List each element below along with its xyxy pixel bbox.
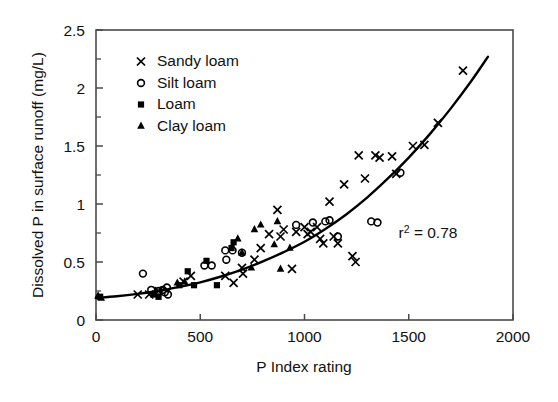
- legend-item-loam[interactable]: Loam: [138, 95, 196, 112]
- data-point: [326, 217, 333, 224]
- data-point: [274, 217, 282, 224]
- series-silt-loam: [140, 169, 404, 298]
- data-point: [355, 151, 363, 159]
- x-tick-label-500: 500: [187, 328, 213, 345]
- data-point: [251, 225, 259, 232]
- data-point: [388, 152, 396, 160]
- y-axis-title: Dissolved P in surface runoff (mg/L): [29, 52, 46, 298]
- legend-item-silt-loam[interactable]: Silt loam: [138, 74, 217, 91]
- chart-legend: Sandy loamSilt loamLoamClay loam: [137, 52, 239, 134]
- data-point: [340, 180, 348, 188]
- legend-item-clay-loam[interactable]: Clay loam: [137, 117, 226, 134]
- data-point: [222, 247, 229, 254]
- data-point: [223, 256, 230, 263]
- data-point: [293, 221, 300, 228]
- data-point: [257, 220, 265, 227]
- x-axis-tick-labels: 0500100015002000: [92, 328, 531, 345]
- data-point: [316, 235, 324, 243]
- data-point: [257, 244, 265, 252]
- data-point: [228, 245, 234, 251]
- data-point: [185, 268, 191, 274]
- y-tick-label-0.5: 0.5: [63, 254, 85, 271]
- data-point: [270, 240, 278, 247]
- data-point: [326, 198, 334, 206]
- legend-marker-circle-icon: [138, 80, 145, 87]
- legend-marker-square-icon: [138, 101, 144, 107]
- fitted-trend-curve: [96, 57, 488, 298]
- data-point: [265, 230, 273, 238]
- data-point: [288, 265, 296, 273]
- legend-label: Clay loam: [157, 117, 226, 134]
- data-point: [174, 278, 182, 285]
- legend-marker-triangle-icon: [137, 122, 145, 129]
- y-tick-label-2.5: 2.5: [63, 22, 85, 39]
- legend-marker-cross-icon: [137, 58, 145, 66]
- y-tick-label-0: 0: [76, 312, 85, 329]
- data-point: [234, 234, 242, 241]
- data-point: [334, 233, 341, 240]
- data-points-layer: [94, 67, 467, 301]
- data-point: [230, 279, 238, 287]
- data-point: [203, 258, 209, 264]
- data-point: [319, 239, 327, 247]
- data-point: [309, 219, 316, 226]
- x-axis-title: P Index rating: [256, 358, 351, 375]
- data-point: [140, 270, 147, 277]
- x-axis-ticks: [96, 314, 513, 320]
- data-point: [214, 282, 220, 288]
- data-point: [459, 67, 467, 75]
- data-point: [277, 264, 285, 271]
- x-tick-label-0: 0: [92, 328, 101, 345]
- legend-label: Sandy loam: [157, 52, 239, 69]
- data-point: [313, 223, 321, 231]
- r-squared-annotation: r2 = 0.78: [399, 223, 458, 241]
- y-tick-label-1: 1: [76, 196, 85, 213]
- data-point: [155, 294, 161, 300]
- legend-label: Loam: [157, 95, 196, 112]
- legend-label: Silt loam: [157, 74, 216, 91]
- y-axis-tick-labels: 00.511.522.5: [63, 22, 85, 329]
- scatter-plot-svg: 0500100015002000 00.511.522.5 P Index ra…: [0, 0, 558, 402]
- data-point: [307, 228, 315, 236]
- x-tick-label-1000: 1000: [287, 328, 322, 345]
- y-tick-label-2: 2: [76, 80, 85, 97]
- y-tick-label-1.5: 1.5: [63, 138, 85, 155]
- data-point: [273, 206, 281, 214]
- x-tick-label-2000: 2000: [496, 328, 531, 345]
- x-tick-label-1500: 1500: [392, 328, 427, 345]
- chart-figure: 0500100015002000 00.511.522.5 P Index ra…: [0, 0, 558, 402]
- r-squared-text: r2 = 0.78: [399, 223, 458, 241]
- data-point: [361, 174, 369, 182]
- legend-item-sandy-loam[interactable]: Sandy loam: [137, 52, 239, 69]
